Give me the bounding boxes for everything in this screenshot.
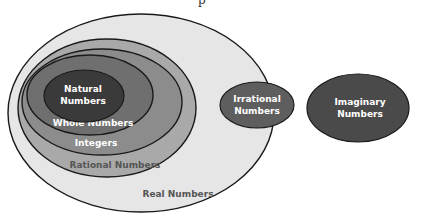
natural-numbers-label-line1: Natural (64, 84, 102, 94)
natural-numbers-label-line2: Numbers (60, 96, 106, 106)
number-sets-venn-diagram: Real Numbers Rational Numbers Integers W… (0, 0, 424, 224)
irrational-numbers-label-line2: Numbers (234, 106, 280, 116)
integers-label: Integers (75, 138, 118, 148)
imaginary-numbers-set: Imaginary Numbers (307, 74, 409, 142)
real-numbers-label: Real Numbers (143, 189, 214, 199)
natural-numbers-set: Natural Numbers (44, 70, 124, 122)
imaginary-numbers-label-line1: Imaginary (334, 97, 385, 107)
irrational-numbers-label-line1: Irrational (233, 94, 280, 104)
irrational-numbers-set: Irrational Numbers (220, 82, 294, 128)
imaginary-numbers-label-line2: Numbers (337, 109, 383, 119)
rational-numbers-label: Rational Numbers (70, 160, 161, 170)
